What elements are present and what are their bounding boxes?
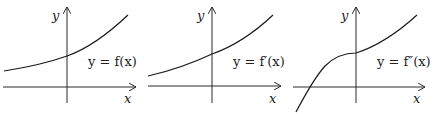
x-axis-label: x xyxy=(413,91,421,106)
panel-f-double-prime: y x y = f″(x) xyxy=(293,7,431,112)
derivative-graphs-figure: y x y = f(x) y x y = f′(x) y x y = f″(x) xyxy=(0,0,433,114)
y-axis-label: y xyxy=(51,8,60,23)
y-axis-label: y xyxy=(196,8,205,23)
equation-label: y = f″(x) xyxy=(376,54,431,69)
y-axis-label: y xyxy=(340,8,349,23)
equation-label: y = f′(x) xyxy=(232,54,285,69)
x-axis-label: x xyxy=(269,91,277,106)
equation-label: y = f(x) xyxy=(87,54,137,69)
panel-f: y x y = f(x) xyxy=(3,7,137,106)
panel-f-prime: y x y = f′(x) xyxy=(148,7,285,106)
x-axis-label: x xyxy=(124,91,132,106)
